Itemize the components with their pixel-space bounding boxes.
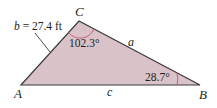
vertex-label-c: C [75, 4, 84, 19]
vertex-label-b: B [199, 87, 207, 102]
angle-label-c: 102.3° [69, 37, 100, 49]
side-label-a: a [128, 35, 134, 49]
side-label-b-value: = 27.4 ft [20, 20, 63, 32]
triangle-diagram: C A B a c b = 27.4 ft 102.3° 28.7° [0, 0, 217, 108]
angle-label-b: 28.7° [145, 71, 170, 83]
side-label-b: b = 27.4 ft [14, 20, 63, 32]
side-label-c: c [107, 85, 113, 99]
vertex-label-a: A [13, 86, 22, 101]
side-b-leader-line [35, 33, 50, 52]
